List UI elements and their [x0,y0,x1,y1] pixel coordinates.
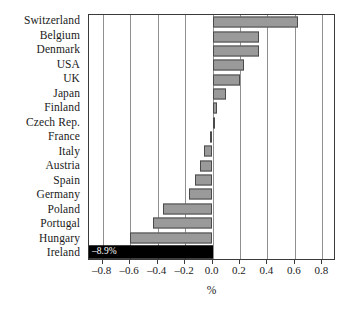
bar-row [89,116,334,130]
bar-row [89,202,334,216]
bar [213,45,260,56]
bar [163,203,212,214]
bar-row [89,130,334,144]
bar-row [89,15,334,29]
category-label: Poland [0,202,84,216]
axis-tick-label: –0.6 [120,265,139,276]
bar-row [89,216,334,230]
bar-row [89,72,334,86]
bar-value-label: –8.9% [89,247,117,257]
bar [195,175,213,186]
axis-tick-label: 0.2 [232,265,246,276]
bar [213,88,227,99]
bar [213,74,240,85]
bar-row [89,173,334,187]
category-label: UK [0,72,84,86]
category-label: Ireland [0,246,84,260]
bar [213,17,298,28]
bar-row [89,87,334,101]
axis-tick-label: 0.6 [287,265,301,276]
axis-tick-label: –0.2 [174,265,193,276]
bar [213,103,217,114]
bar [130,232,212,243]
category-label: Czech Rep. [0,115,84,129]
bar [213,31,260,42]
bar [213,117,215,128]
plot-area: –8.9% [88,14,335,260]
bar-row [89,230,334,244]
category-label: France [0,130,84,144]
bar [210,132,213,143]
axis-tick-label: –0.8 [92,265,111,276]
axis-tick-label: 0.4 [260,265,274,276]
bar-row [89,159,334,173]
bar-row [89,101,334,115]
category-axis-labels: SwitzerlandBelgiumDenmarkUSAUKJapanFinla… [0,14,84,260]
category-label: Switzerland [0,14,84,28]
bar-series: –8.9% [89,15,334,259]
bar-row [89,187,334,201]
bar-row [89,29,334,43]
bar [200,160,212,171]
category-label: Italy [0,144,84,158]
bar-row [89,44,334,58]
category-label: Germany [0,188,84,202]
axis-tick-label: 0.8 [314,265,328,276]
category-label: Spain [0,173,84,187]
bar [213,60,245,71]
x-axis-title: % [88,285,335,297]
category-label: Hungary [0,231,84,245]
axis-tick-label: 0.0 [205,265,219,276]
category-label: Austria [0,159,84,173]
bar-row: –8.9% [89,245,334,259]
category-label: Denmark [0,43,84,57]
category-label: USA [0,57,84,71]
category-label: Belgium [0,28,84,42]
bar-chart-figure: SwitzerlandBelgiumDenmarkUSAUKJapanFinla… [0,0,362,309]
bar-row [89,144,334,158]
axis-tick-label: –0.4 [147,265,166,276]
bar [204,146,212,157]
bar [189,189,212,200]
category-label: Finland [0,101,84,115]
bar-row [89,58,334,72]
category-label: Japan [0,86,84,100]
bar [153,218,212,229]
category-label: Portugal [0,217,84,231]
